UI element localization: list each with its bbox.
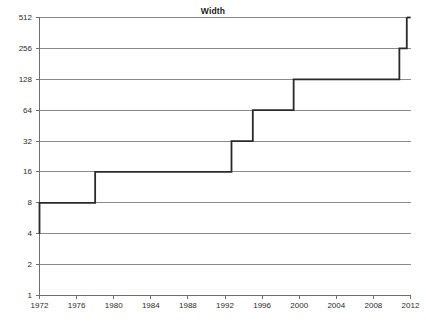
y-axis-tick-label: 256: [0, 44, 32, 53]
y-axis-tick-label: 4: [0, 229, 32, 238]
gridlines: [40, 18, 411, 296]
x-axis-tick-label: 1996: [242, 301, 282, 310]
x-axis-tick-label: 2008: [353, 301, 393, 310]
x-axis-tick-label: 2004: [316, 301, 356, 310]
y-axis-tick-label: 512: [0, 13, 32, 22]
x-axis-tick-label: 1988: [168, 301, 208, 310]
y-axis-ticks: [36, 18, 40, 296]
x-axis-tick-label: 1976: [57, 301, 97, 310]
x-axis-tick-label: 2012: [391, 301, 426, 310]
data-series-width: [40, 18, 411, 234]
axes: [40, 18, 411, 296]
x-axis-ticks: [40, 296, 411, 300]
y-axis-tick-label: 128: [0, 75, 32, 84]
plot-area: [0, 0, 426, 324]
y-axis-tick-label: 2: [0, 260, 32, 269]
y-axis-tick-label: 16: [0, 167, 32, 176]
y-axis-tick-label: 8: [0, 198, 32, 207]
x-axis-tick-label: 1984: [131, 301, 171, 310]
y-axis-tick-label: 32: [0, 137, 32, 146]
y-axis-tick-label: 64: [0, 106, 32, 115]
x-axis-tick-label: 1992: [205, 301, 245, 310]
x-axis-tick-label: 1980: [94, 301, 134, 310]
y-axis-tick-label: 1: [0, 291, 32, 300]
x-axis-tick-label: 2000: [279, 301, 319, 310]
chart-container: Width 1248163264128256512 19721976198019…: [0, 0, 426, 324]
x-axis-tick-label: 1972: [20, 301, 60, 310]
